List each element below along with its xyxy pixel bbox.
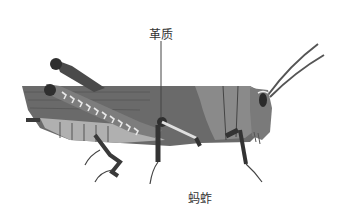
grasshopper-illustration — [0, 0, 349, 216]
caption: 蚂蚱 — [188, 189, 212, 206]
eye — [259, 93, 267, 107]
wing-label: 革质 — [149, 25, 173, 42]
antennae — [268, 44, 324, 97]
